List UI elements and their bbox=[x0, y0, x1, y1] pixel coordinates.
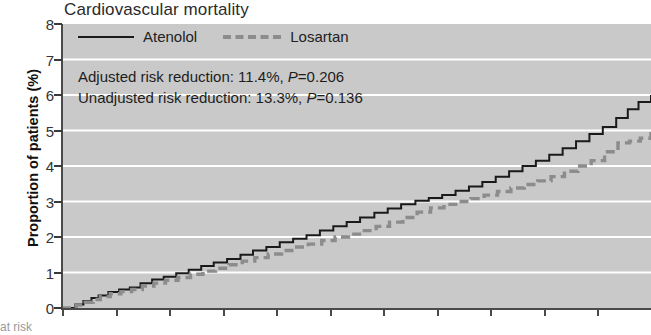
gridline bbox=[62, 272, 651, 274]
gridline bbox=[62, 130, 651, 132]
chart-title: Cardiovascular mortality bbox=[64, 0, 249, 20]
annotation-unadjusted-p-symbol: P bbox=[306, 89, 316, 106]
annotation-unadjusted-p-value: =0.136 bbox=[316, 89, 362, 106]
y-tick-mark bbox=[54, 272, 62, 274]
x-tick-mark bbox=[597, 309, 599, 316]
legend-item-atenolol: Atenolol bbox=[78, 28, 197, 45]
gridline bbox=[62, 201, 651, 203]
legend-label-atenolol: Atenolol bbox=[143, 28, 197, 45]
x-tick-mark bbox=[276, 309, 278, 316]
annotation-adjusted-p-symbol: P bbox=[288, 68, 298, 85]
x-tick-mark bbox=[116, 309, 118, 316]
legend-line-dashed-icon bbox=[223, 35, 281, 39]
chart-figure: Cardiovascular mortality Proportion of p… bbox=[0, 0, 651, 335]
chart-legend: Atenolol Losartan bbox=[78, 28, 349, 45]
y-tick-label: 2 bbox=[38, 229, 54, 246]
x-tick-mark bbox=[330, 309, 332, 316]
y-tick-label: 8 bbox=[38, 16, 54, 33]
annotation-adjusted: Adjusted risk reduction: 11.4%, P=0.206 bbox=[78, 66, 363, 87]
y-tick-mark bbox=[54, 23, 62, 25]
y-tick-mark bbox=[54, 59, 62, 61]
legend-label-losartan: Losartan bbox=[290, 28, 348, 45]
y-tick-label: 0 bbox=[38, 300, 54, 317]
gridline bbox=[62, 59, 651, 61]
y-tick-label: 3 bbox=[38, 193, 54, 210]
bottom-caption: at risk bbox=[0, 320, 120, 335]
annotation-unadjusted: Unadjusted risk reduction: 13.3%, P=0.13… bbox=[78, 87, 363, 108]
y-tick-mark bbox=[54, 307, 62, 309]
y-tick-mark bbox=[54, 130, 62, 132]
legend-item-losartan: Losartan bbox=[223, 28, 348, 45]
x-tick-mark bbox=[383, 309, 385, 316]
y-tick-mark bbox=[54, 165, 62, 167]
y-tick-mark bbox=[54, 94, 62, 96]
y-tick-label: 7 bbox=[38, 51, 54, 68]
y-tick-mark bbox=[54, 201, 62, 203]
y-tick-label: 6 bbox=[38, 87, 54, 104]
x-tick-mark bbox=[490, 309, 492, 316]
y-tick-label: 5 bbox=[38, 122, 54, 139]
x-tick-mark bbox=[169, 309, 171, 316]
y-tick-mark bbox=[54, 236, 62, 238]
x-tick-mark bbox=[437, 309, 439, 316]
legend-line-solid-icon bbox=[78, 36, 134, 38]
series-line-losartan bbox=[62, 131, 651, 309]
x-tick-mark bbox=[62, 309, 64, 316]
annotation-unadjusted-prefix: Unadjusted risk reduction: 13.3%, bbox=[78, 89, 306, 106]
y-axis-ticks: 012345678 bbox=[0, 0, 62, 335]
y-tick-label: 1 bbox=[38, 264, 54, 281]
gridline bbox=[62, 236, 651, 238]
gridline bbox=[62, 165, 651, 167]
annotation-adjusted-prefix: Adjusted risk reduction: 11.4%, bbox=[78, 68, 288, 85]
x-axis-line bbox=[61, 308, 651, 310]
x-tick-mark bbox=[223, 309, 225, 316]
annotation-adjusted-p-value: =0.206 bbox=[298, 68, 344, 85]
x-tick-mark bbox=[544, 309, 546, 316]
y-tick-label: 4 bbox=[38, 158, 54, 175]
statistics-annotations: Adjusted risk reduction: 11.4%, P=0.206 … bbox=[78, 66, 363, 109]
